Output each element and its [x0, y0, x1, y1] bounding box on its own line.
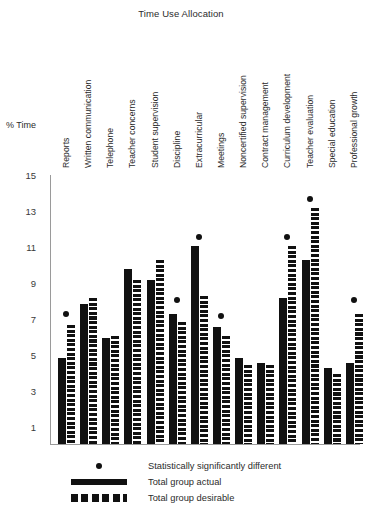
category-label-10: Curriculum development [276, 26, 298, 168]
category-label-4: Student supervision [144, 26, 166, 168]
legend-label: Total group actual [138, 477, 221, 487]
legend-item-solid: Total group actual [60, 474, 360, 490]
significance-dot [307, 196, 313, 202]
category-label-text: Noncertified supervision [238, 75, 248, 168]
bar-actual [302, 260, 310, 444]
bar-actual [80, 304, 88, 444]
bar-actual [346, 363, 354, 444]
bar-desirable [178, 322, 186, 444]
bar-desirable [111, 336, 119, 444]
category-label-text: Curriculum development [282, 74, 292, 168]
bar-desirable [244, 365, 252, 444]
category-label-text: Teacher evaluation [304, 95, 314, 168]
y-tick-label-1: 1 [31, 422, 36, 433]
bar-series-container [51, 175, 360, 444]
bar-actual [324, 368, 332, 444]
bar-desirable [355, 314, 363, 444]
bar-group-3 [124, 175, 141, 444]
legend-label: Statistically significantly different [138, 461, 281, 471]
category-label-text: Extracurricular [193, 112, 203, 168]
bar-actual [169, 314, 177, 444]
bar-desirable [89, 298, 97, 444]
bar-group-12 [324, 175, 341, 444]
y-tick-label-15: 15 [25, 170, 36, 181]
y-tick-label-11: 11 [26, 242, 36, 253]
category-label-5: Discipline [166, 26, 188, 168]
bar-desirable [288, 246, 296, 444]
y-axis-label: % Time [6, 120, 36, 130]
bar-desirable [333, 374, 341, 444]
legend-item-dashed: Total group desirable [60, 490, 360, 506]
category-label-text: Student supervision [149, 92, 159, 168]
bar-desirable [311, 208, 319, 444]
y-tick-label-3: 3 [31, 386, 36, 397]
legend-swatch-dot [60, 459, 138, 473]
category-label-7: Meetings [210, 26, 232, 168]
category-label-text: Meetings [216, 133, 226, 168]
category-label-11: Teacher evaluation [299, 26, 321, 168]
category-label-text: Contract management [260, 82, 270, 168]
category-label-3: Teacher concerns [121, 26, 143, 168]
bar-group-9 [257, 175, 274, 444]
bar-desirable [156, 260, 164, 444]
legend-item-dot: Statistically significantly different [60, 458, 360, 474]
bar-actual [58, 358, 66, 444]
bar-group-8 [235, 175, 252, 444]
bar-group-5 [169, 175, 186, 444]
category-axis-labels: ReportsWritten communicationTelephoneTea… [50, 26, 360, 168]
bar-group-0 [58, 175, 75, 444]
category-label-0: Reports [55, 26, 77, 168]
y-tick-label-13: 13 [25, 206, 36, 217]
bar-desirable [266, 365, 274, 444]
chart-title: Time Use Allocation [0, 8, 362, 19]
chart-legend: Statistically significantly differentTot… [60, 458, 360, 506]
bar-group-10 [279, 175, 296, 444]
bar-desirable [200, 296, 208, 444]
category-label-9: Contract management [254, 26, 276, 168]
solid-bar-icon [71, 479, 127, 485]
category-label-13: Professional growth [343, 26, 365, 168]
significance-dot [196, 234, 202, 240]
bar-group-7 [213, 175, 230, 444]
bar-desirable [133, 280, 141, 444]
bar-desirable [67, 325, 75, 444]
bar-actual [147, 280, 155, 444]
dot-icon [96, 463, 102, 469]
significance-dot [284, 234, 290, 240]
y-tick-label-9: 9 [31, 278, 36, 289]
category-label-text: Professional growth [348, 92, 358, 168]
y-axis-ticks: 13579111315 [0, 175, 46, 445]
category-label-text: Special education [326, 99, 336, 168]
category-label-text: Teacher concerns [127, 99, 137, 168]
bar-actual [279, 298, 287, 444]
bar-actual [235, 358, 243, 444]
bar-group-1 [80, 175, 97, 444]
category-label-12: Special education [321, 26, 343, 168]
bar-group-4 [147, 175, 164, 444]
bar-desirable [222, 336, 230, 444]
legend-swatch-solid [60, 475, 138, 489]
significance-dot [218, 313, 224, 319]
bar-group-13 [346, 175, 363, 444]
significance-dot [63, 311, 69, 317]
plot-area [50, 175, 360, 445]
bar-actual [257, 363, 265, 444]
category-label-text: Telephone [105, 128, 115, 168]
bar-actual [213, 327, 221, 444]
bar-actual [124, 269, 132, 444]
category-label-text: Reports [61, 138, 71, 168]
significance-dot [174, 297, 180, 303]
category-label-text: Discipline [171, 131, 181, 168]
bar-group-6 [191, 175, 208, 444]
bar-group-11 [302, 175, 319, 444]
category-label-text: Written communication [83, 80, 93, 168]
category-label-1: Written communication [77, 26, 99, 168]
y-tick-label-7: 7 [31, 314, 36, 325]
bar-actual [102, 338, 110, 444]
legend-label: Total group desirable [138, 493, 234, 503]
dashed-bar-icon [71, 494, 127, 502]
significance-dot [351, 297, 357, 303]
category-label-8: Noncertified supervision [232, 26, 254, 168]
category-label-6: Extracurricular [188, 26, 210, 168]
y-tick-label-5: 5 [31, 350, 36, 361]
